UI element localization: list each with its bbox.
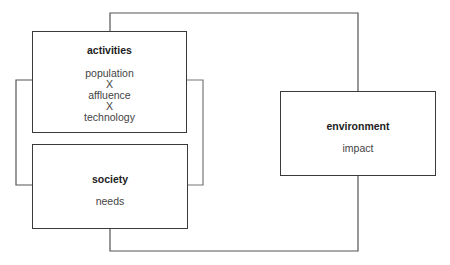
right-bracket-connector	[187, 80, 203, 185]
activities-title: activities	[87, 44, 132, 56]
left-bracket-connector	[16, 80, 32, 185]
environment-title: environment	[326, 120, 389, 132]
environment-box: environment impact	[280, 91, 436, 176]
society-line-needs: needs	[96, 196, 125, 207]
society-title: society	[92, 173, 128, 185]
activities-box: activities population X affluence X tech…	[32, 31, 187, 133]
environment-line-impact: impact	[343, 143, 374, 154]
society-box: society needs	[32, 144, 188, 229]
activities-line-technology: technology	[84, 112, 135, 123]
